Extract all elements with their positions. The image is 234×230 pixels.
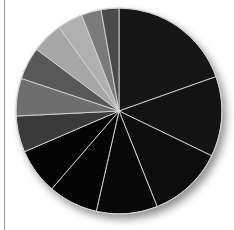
pie-chart <box>0 0 234 230</box>
pie-slices <box>16 8 222 214</box>
